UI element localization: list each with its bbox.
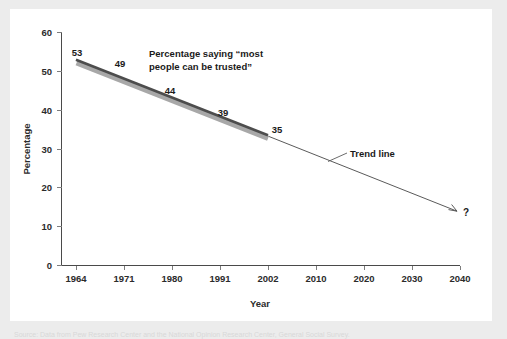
x-axis: 1964 1971 1980 1991 2002 2010 2020 2030 … bbox=[62, 266, 471, 310]
data-label-1964: 53 bbox=[72, 47, 83, 58]
series-annotation-line2: people can be trusted” bbox=[149, 61, 252, 72]
y-axis: 60 50 40 30 20 10 0 Percentage bbox=[21, 27, 62, 271]
data-label-2002: 35 bbox=[272, 124, 283, 135]
y-tick-label-10: 10 bbox=[41, 221, 52, 232]
x-axis-title: Year bbox=[250, 298, 270, 309]
y-tick-label-20: 20 bbox=[41, 182, 52, 193]
y-tick-label-60: 60 bbox=[41, 27, 52, 38]
trend-line-annotation-label: Trend line bbox=[350, 148, 395, 159]
data-label-1991: 39 bbox=[218, 107, 229, 118]
series-annotation-line1: Percentage saying “most bbox=[149, 48, 264, 59]
data-label-1971: 49 bbox=[115, 58, 126, 69]
x-tick-label-1991: 1991 bbox=[209, 273, 231, 284]
x-tick-label-1980: 1980 bbox=[161, 273, 182, 284]
series-annotation: Percentage saying “most people can be tr… bbox=[149, 48, 264, 72]
y-tick-label-50: 50 bbox=[41, 66, 52, 77]
trend-line-annotation: Trend line bbox=[328, 148, 395, 162]
chart-plot-area: 60 50 40 30 20 10 0 Percentage bbox=[10, 9, 492, 321]
figure-source-caption: Source: Data from Pew Research Center an… bbox=[14, 331, 494, 339]
y-tick-label-40: 40 bbox=[41, 105, 52, 116]
x-tick-label-1971: 1971 bbox=[113, 273, 135, 284]
x-tick-label-2002: 2002 bbox=[257, 273, 278, 284]
data-label-1980: 44 bbox=[165, 85, 176, 96]
x-tick-label-2010: 2010 bbox=[305, 273, 326, 284]
x-tick-label-1964: 1964 bbox=[65, 273, 87, 284]
data-line-shadow bbox=[77, 63, 269, 139]
x-tick-label-2030: 2030 bbox=[401, 273, 422, 284]
y-tick-label-0: 0 bbox=[47, 260, 52, 271]
x-tick-label-2040: 2040 bbox=[449, 273, 470, 284]
trend-line-leader bbox=[328, 153, 347, 162]
y-tick-label-30: 30 bbox=[41, 144, 52, 155]
future-unknown-marker: ? bbox=[463, 207, 469, 218]
figure-card: 60 50 40 30 20 10 0 Percentage bbox=[10, 9, 492, 321]
x-tick-label-2020: 2020 bbox=[353, 273, 374, 284]
future-unknown-label: ? bbox=[463, 207, 469, 218]
line-chart-svg: 60 50 40 30 20 10 0 Percentage bbox=[10, 9, 492, 321]
y-axis-title: Percentage bbox=[21, 123, 32, 174]
